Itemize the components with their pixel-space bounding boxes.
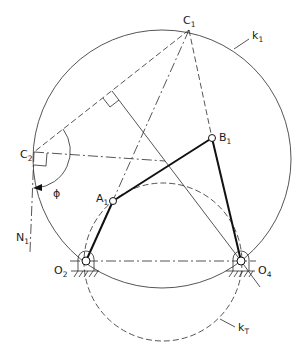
- phi-arrowhead: [33, 184, 42, 191]
- pivot-O4: [226, 251, 260, 287]
- label-A1: A1: [96, 192, 109, 207]
- label-N1: N1: [16, 231, 29, 246]
- chord-C1-C2: [34, 30, 189, 152]
- label-kT: kT: [238, 321, 249, 336]
- link-A1-B1: [113, 138, 212, 201]
- leader-k1: [234, 39, 249, 49]
- joint-O2: [82, 257, 90, 265]
- leader-kT: [220, 319, 235, 327]
- right-angle-marker: [103, 98, 119, 107]
- label-C2: C2: [20, 148, 33, 163]
- label-C1: C1: [183, 14, 196, 29]
- line-C2-center: [34, 152, 165, 161]
- joint-B1: [209, 135, 216, 142]
- line-C1-B1: [189, 30, 212, 138]
- label-B1: B1: [219, 131, 232, 146]
- label-phi: ϕ: [53, 187, 60, 200]
- linkage-diagram: C1 C2 B1 A1 O2 O4 N1 k1 kT ϕ: [0, 0, 307, 360]
- circle-k1: [33, 30, 291, 288]
- phi-arc: [36, 129, 70, 188]
- joint-O4: [237, 257, 245, 265]
- joint-A1: [110, 198, 117, 205]
- label-k1: k1: [252, 29, 263, 44]
- label-O4: O4: [258, 264, 272, 279]
- right-angle-marker-C2: [34, 153, 47, 166]
- label-O2: O2: [54, 264, 68, 279]
